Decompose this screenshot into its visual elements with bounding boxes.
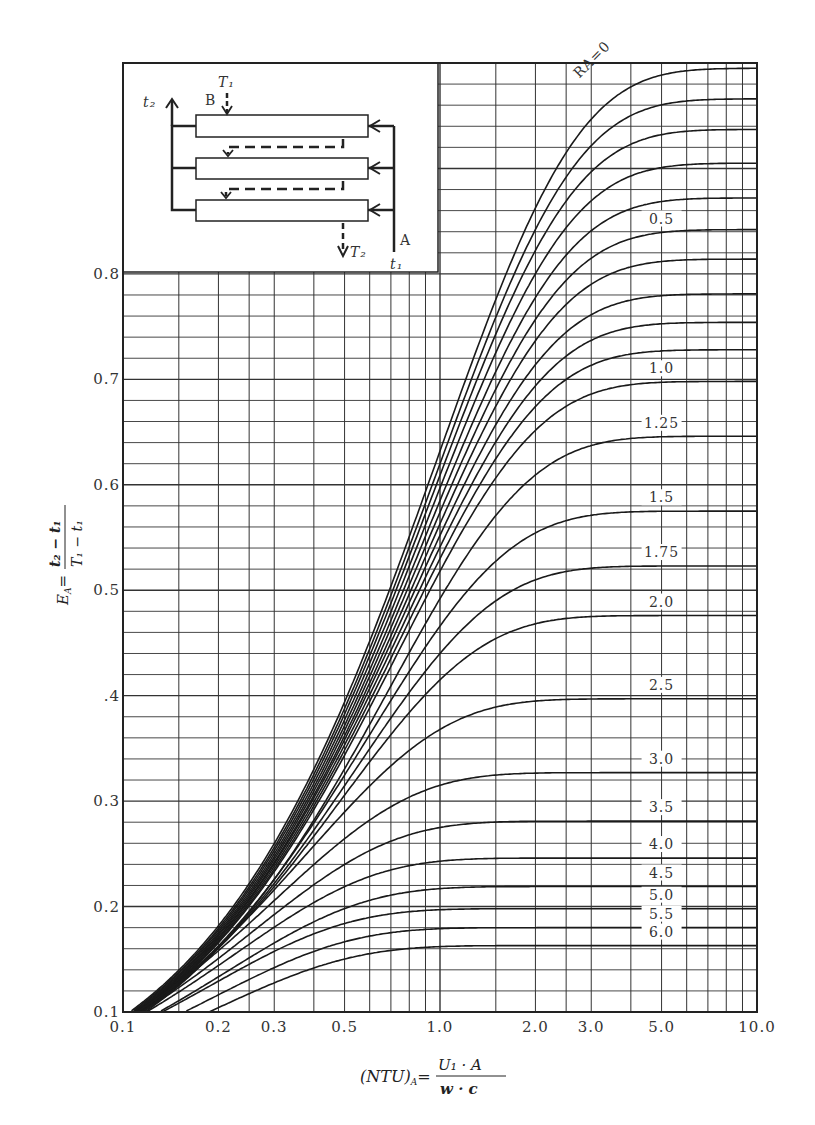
x-tick-label: 0.2 (205, 1018, 232, 1036)
curve-label: 1.25 (644, 415, 679, 431)
svg-text:T₁ − t₁: T₁ − t₁ (69, 520, 85, 567)
x-tick-label: 0.5 (331, 1018, 358, 1036)
curve-label: 1.75 (644, 544, 679, 560)
x-tick-label: 0.3 (261, 1018, 288, 1036)
curve-RA-0.7 (140, 294, 757, 1011)
curve-label: 4.5 (649, 865, 674, 881)
curve-label: 2.5 (649, 677, 674, 693)
svg-text:U₁ · A: U₁ · A (438, 1056, 482, 1074)
tube-2 (196, 158, 368, 179)
svg-text:(NTU)A=: (NTU)A= (360, 1067, 431, 1087)
curve-RA-5.5 (186, 928, 757, 1011)
curve-label: 1.5 (649, 489, 674, 505)
label-t2: t₂ (143, 94, 156, 110)
y-tick-label: 0.3 (93, 792, 120, 810)
x-tick-label: 10.0 (738, 1018, 775, 1036)
curve-label: 4.0 (649, 836, 674, 852)
curve-RA-6.0 (210, 946, 757, 1012)
curve-label: 3.0 (649, 751, 674, 767)
curve-label: 0.5 (649, 211, 674, 227)
label-T1: T₁ (218, 74, 235, 90)
y-tick-label: 0.2 (93, 898, 120, 916)
inset-diagram: t₂ T₁ B A T₂ t₁ (123, 63, 438, 272)
curve-label: 2.0 (649, 594, 674, 610)
label-B: B (205, 92, 216, 108)
label-T2: T₂ (350, 244, 367, 260)
y-tick-label: .4 (104, 687, 120, 705)
curve-label: 1.0 (649, 360, 674, 376)
x-axis-title: (NTU)A= U₁ · A w · c (360, 1052, 560, 1106)
y-tick-label: 0.1 (93, 1003, 120, 1021)
curve-label: 5.0 (649, 887, 674, 903)
y-tick-label: 0.7 (93, 370, 120, 388)
curve-label: 5.5 (649, 906, 674, 922)
tube-1 (196, 115, 368, 137)
x-tick-label: 3.0 (578, 1018, 605, 1036)
svg-text:EA=: EA= (54, 575, 73, 606)
curve-label: 6.0 (649, 924, 674, 940)
y-tick-label: 0.8 (93, 265, 120, 283)
curve-labels: RA=00.51.01.251.51.752.02.53.03.54.04.55… (570, 38, 682, 940)
svg-text:t₂ − t₁: t₂ − t₁ (47, 520, 63, 567)
x-tick-label: 5.0 (648, 1018, 675, 1036)
tube-3 (196, 200, 368, 221)
label-A: A (399, 232, 411, 248)
x-tick-label: 1.0 (427, 1018, 454, 1036)
y-axis-title: EA= t₂ − t₁ T₁ − t₁ (28, 470, 98, 610)
svg-text:w · c: w · c (440, 1080, 478, 1098)
effectiveness-chart: RA=00.51.01.251.51.752.02.53.03.54.04.55… (0, 0, 815, 1125)
label-t1: t₁ (390, 256, 403, 272)
x-tick-label: 2.0 (522, 1018, 549, 1036)
curve-RA-2.5 (138, 699, 757, 1012)
curve-label: 3.5 (649, 799, 674, 815)
